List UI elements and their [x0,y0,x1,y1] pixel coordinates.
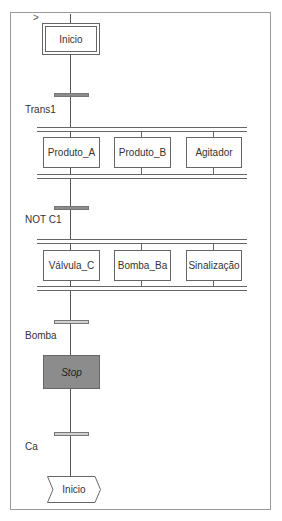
parallel-convergence-rail [37,286,247,287]
transition-ca[interactable] [54,432,89,436]
branch-connector [213,243,214,250]
connector-line [70,243,71,250]
step-label: Stop [61,367,82,378]
parallel-divergence-rail [37,239,247,240]
step-label: Produto_B [119,147,166,158]
jump-label: Inicio [47,476,101,503]
connector-line [70,14,71,23]
step-stop[interactable]: Stop [43,355,100,389]
parallel-divergence-rail [37,127,247,128]
step-produto-b[interactable]: Produto_B [114,137,171,168]
transition-label: Ca [25,441,38,452]
parallel-convergence-rail [37,290,247,291]
step-agitador[interactable]: Agitador [186,137,242,168]
initial-step-marker-icon: > [33,12,39,23]
parallel-convergence-rail [37,174,247,175]
transition-label: Bomba [25,330,57,341]
step-label: Agitador [195,147,232,158]
connector-line [70,55,71,127]
transition-label: NOT C1 [25,214,62,225]
step-label: Válvula_C [49,260,95,271]
transition-label: Trans1 [25,104,56,115]
step-bomba-ba[interactable]: Bomba_Ba [114,250,171,281]
parallel-convergence-rail [37,178,247,179]
step-label: Inicio [59,34,82,45]
step-produto-a[interactable]: Produto_A [43,137,100,168]
parallel-divergence-rail [37,243,247,244]
transition-not-c1[interactable] [54,206,89,210]
initial-step-inicio[interactable]: Inicio [42,23,100,55]
step-label: Sinalização [188,260,239,271]
step-valvula-c[interactable]: Válvula_C [43,250,100,281]
step-sinalizacao[interactable]: Sinalização [186,250,242,281]
parallel-divergence-rail [37,131,247,132]
transition-trans1[interactable] [54,93,89,97]
transition-bomba[interactable] [54,320,89,324]
step-label: Produto_A [48,147,95,158]
branch-connector [141,243,142,250]
step-label: Bomba_Ba [118,260,167,271]
